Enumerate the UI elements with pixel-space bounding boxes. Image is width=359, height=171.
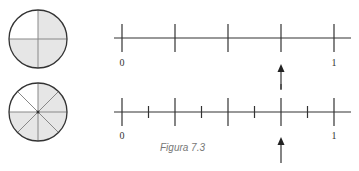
figure-caption: Figura 7.3 (160, 142, 205, 153)
line1-label-zero: 0 (120, 57, 125, 68)
line2-label-one: 1 (332, 130, 337, 141)
arrow-up-icon (278, 137, 285, 163)
line2-label-zero: 0 (120, 130, 125, 141)
fraction-figure: 0 1 0 1 Figura 7.3 (0, 0, 359, 171)
line1-label-one: 1 (332, 57, 337, 68)
circle-quarters (9, 10, 67, 68)
number-line-quarters (114, 24, 351, 52)
circle-eighths (9, 83, 67, 141)
number-line-eighths (114, 98, 351, 126)
